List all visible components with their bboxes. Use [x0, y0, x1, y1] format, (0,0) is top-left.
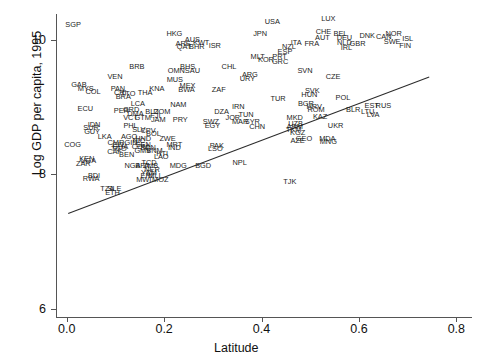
data-point-label: HKG [166, 30, 182, 37]
data-point-label: SGP [65, 21, 80, 28]
data-point-label: LVA [367, 111, 380, 118]
data-point-label: MWI [136, 177, 151, 184]
data-point-label: COG [64, 142, 81, 149]
x-axis-label: Latitude [214, 341, 258, 355]
x-tick-label: 0.8 [436, 322, 476, 336]
data-point-label: SAU [185, 67, 200, 74]
x-tick-label: 0.4 [242, 322, 282, 336]
data-point-label: VEN [107, 73, 122, 80]
data-point-label: SVN [297, 67, 312, 74]
data-point-label: THA [138, 90, 153, 97]
data-point-label: ZAR [76, 160, 91, 167]
data-point-label: ZAF [212, 86, 226, 93]
data-point-label: BRB [129, 63, 144, 70]
data-point-label: LSO [208, 145, 223, 152]
data-point-label: CHN [249, 123, 265, 130]
y-tick-label: 6 [16, 302, 46, 316]
data-point-label: OMN [168, 67, 185, 74]
data-point-label: FRA [304, 40, 319, 47]
data-point-label: AZE [290, 138, 304, 145]
data-point-label: BLR [346, 106, 360, 113]
data-point-label: BEN [119, 151, 134, 158]
data-point-label: POL [336, 94, 351, 101]
data-point-label: BWA [178, 86, 194, 93]
data-point-label: PRY [173, 117, 188, 124]
data-point-label: BGD [195, 162, 211, 169]
data-point-label: IND [168, 144, 181, 151]
data-point-label: UKR [328, 123, 343, 130]
data-point-label: COL [86, 88, 101, 95]
data-point-label: MOZ [152, 177, 168, 184]
x-tick-label: 0.0 [47, 322, 87, 336]
data-point-label: LUX [321, 15, 335, 22]
data-point-label: TUR [271, 95, 286, 102]
data-point-label: HUN [301, 91, 317, 98]
data-point-label: BRA [116, 94, 131, 101]
data-point-label: ISR [209, 43, 221, 50]
data-point-label: NAM [170, 101, 186, 108]
data-point-label: BHR [189, 43, 204, 50]
data-point-label: NPL [233, 159, 247, 166]
data-point-label: CHL [222, 63, 237, 70]
data-point-label: IRL [341, 45, 352, 52]
data-point-label: EGY [205, 123, 220, 130]
data-point-label: FIN [399, 42, 411, 49]
x-tick-label: 0.2 [144, 322, 184, 336]
data-point-label: MDG [170, 162, 187, 169]
x-tick-label: 0.6 [339, 322, 379, 336]
data-point-label: CZE [326, 74, 341, 81]
data-point-label: RWA [83, 175, 100, 182]
data-point-label: ETH [105, 189, 120, 196]
data-point-label: USA [265, 18, 280, 25]
data-point-label: KAZ [313, 113, 327, 120]
y-axis-label: Log GDP per capita, 1995 [30, 8, 44, 198]
x-axis-line [56, 317, 472, 318]
data-point-label: SWE [384, 39, 401, 46]
data-point-label: TJK [283, 179, 296, 186]
scatter-plot-figure: 6810 0.00.20.40.60.8 Log GDP per capita,… [0, 0, 488, 364]
data-point-label: GRC [272, 58, 288, 65]
data-point-label: RUS [376, 102, 391, 109]
data-point-label: URY [240, 76, 255, 83]
data-point-label: JPN [253, 30, 267, 37]
plot-area: SGPHKGUSALUXCHEBELNORAUSJPNAUTDEUDNKCANI… [57, 14, 471, 317]
data-point-label: MNG [320, 138, 337, 145]
data-point-label: ECU [78, 105, 93, 112]
data-point-label: JAM [151, 117, 166, 124]
